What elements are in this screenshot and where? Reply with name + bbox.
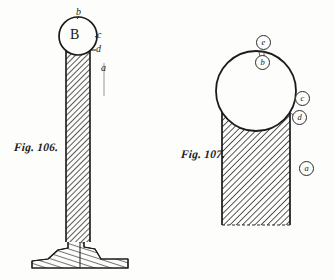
fig-107-label-b-wrap: b [255,55,270,70]
fig-107-label-a-wrap: a [299,161,314,176]
fig-106-label-a: a [101,63,106,73]
fig-107-label-d-wrap: d [292,110,307,125]
fig-106-sphere-letter: B [70,28,79,42]
fig-106-label-b: b [76,7,81,17]
engraving-plate: b c d a B Fig. 106. e b c d a Fig. 107. [0,0,334,280]
fig-107-label-d: d [292,110,307,125]
fig-107-shaft [222,110,290,225]
fig-106-label-c: c [97,30,101,40]
fig-106-label-d: d [96,44,101,54]
fig-107-caption: Fig. 107. [181,148,226,160]
fig-106-caption: Fig. 106. [14,141,59,153]
fig-107-drawing [216,51,296,225]
fig-106-shaft [66,42,90,242]
fig-107-label-c: c [295,91,310,106]
fig-107-label-b: b [255,55,270,70]
fig-106-foot-left [32,238,128,268]
fig-106-foot-outline [32,238,128,268]
figure-lineart-layer [0,0,334,280]
fig-107-label-c-wrap: c [295,91,310,106]
fig-107-label-a: a [299,161,314,176]
fig-107-label-e-wrap: e [256,35,271,50]
fig-107-label-e: e [256,35,271,50]
